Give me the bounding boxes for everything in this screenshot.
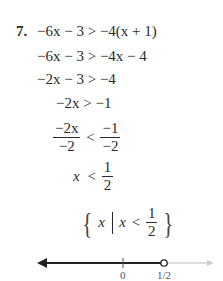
tick-label-half: 1/2 bbox=[157, 270, 171, 281]
open-circle-icon bbox=[161, 260, 167, 266]
right-arrow-icon bbox=[207, 260, 214, 266]
left-arrow-icon bbox=[37, 258, 47, 268]
tick-label-zero: 0 bbox=[120, 270, 126, 281]
